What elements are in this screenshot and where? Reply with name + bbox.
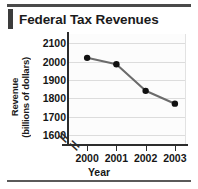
x-axis-title: Year (0, 166, 198, 178)
y-axis-line (67, 32, 69, 144)
data-point-2003 (172, 100, 178, 106)
data-point-2001 (113, 61, 119, 67)
x-axis-tick (175, 146, 176, 151)
x-axis-tick (146, 146, 147, 151)
y-axis-tick-label: 1800 (43, 93, 66, 104)
x-axis-tick-label: 2000 (75, 152, 98, 164)
x-axis-tick (87, 146, 88, 151)
data-point-2000 (84, 55, 90, 61)
y-axis-tick-labels: 160017001800190020002100 (36, 40, 66, 145)
data-series-federal-tax-revenues (69, 34, 186, 144)
y-axis-tick-label: 2100 (43, 38, 66, 49)
x-axis-tick (116, 146, 117, 151)
y-axis-tick-label: 1900 (43, 74, 66, 85)
data-point-2002 (142, 88, 148, 94)
y-axis-title-line-1: Revenue (9, 78, 20, 116)
y-axis-title-line-2: (billions of dollars) (20, 57, 31, 138)
bottom-rule (7, 180, 191, 182)
series-line (87, 58, 175, 104)
y-axis-tick-label: 1700 (43, 111, 66, 122)
top-rule (7, 4, 191, 7)
title-accent-bar (8, 9, 13, 29)
x-axis-tick-label: 2002 (134, 152, 157, 164)
plot-area (69, 34, 186, 144)
x-axis-tick-label: 2001 (105, 152, 128, 164)
y-axis-title: Revenue (billions of dollars) (2, 36, 38, 158)
y-axis-tick-label: 2000 (43, 56, 66, 67)
page-title: Federal Tax Revenues (19, 12, 159, 27)
figure-federal-tax-revenues: Federal Tax Revenues Revenue (billions o… (0, 0, 198, 189)
x-axis-tick-label: 2003 (163, 152, 186, 164)
chart-title-bar: Federal Tax Revenues (8, 8, 159, 30)
